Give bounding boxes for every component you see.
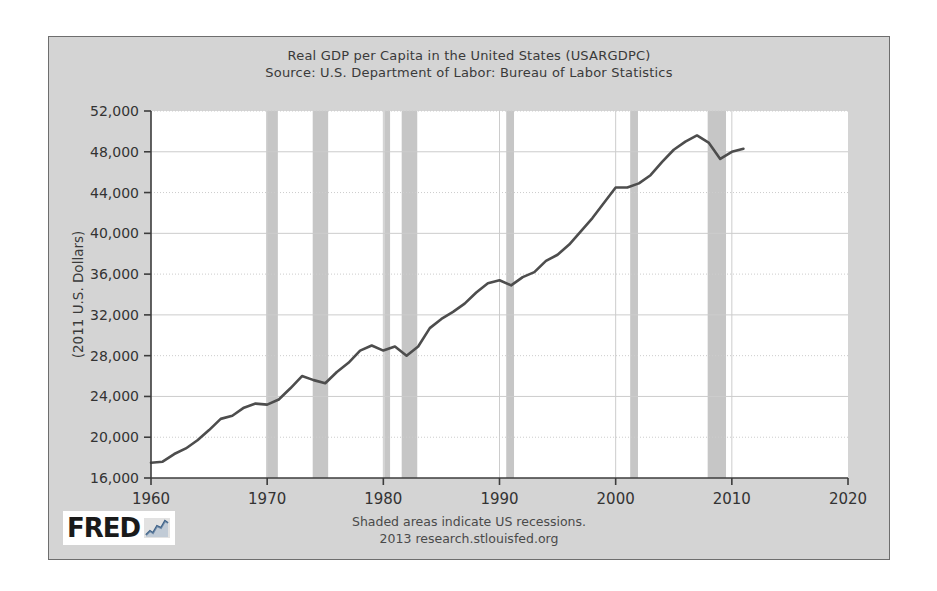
- fred-chart-card: Real GDP per Capita in the United States…: [48, 36, 890, 560]
- recession-band: [313, 111, 328, 478]
- recession-band: [708, 111, 726, 478]
- x-axis-tick-label: 2010: [713, 490, 751, 508]
- fred-logo[interactable]: FRED: [63, 511, 175, 545]
- recession-band: [266, 111, 278, 478]
- y-axis-label: (2011 U.S. Dollars): [70, 231, 86, 359]
- y-axis-tick-label: 52,000: [90, 103, 139, 119]
- y-axis-tick-label: 48,000: [90, 144, 139, 160]
- recession-band: [630, 111, 638, 478]
- chart-plot: 16,00020,00024,00028,00032,00036,00040,0…: [49, 37, 891, 561]
- y-axis-tick-label: 16,000: [90, 470, 139, 486]
- recession-band: [384, 111, 390, 478]
- x-axis-tick-label: 1970: [248, 490, 286, 508]
- y-axis-tick-label: 44,000: [90, 185, 139, 201]
- recession-note: Shaded areas indicate US recessions.: [49, 513, 889, 530]
- y-axis-tick-label: 20,000: [90, 429, 139, 445]
- y-axis-tick-label: 40,000: [90, 225, 139, 241]
- source-note: 2013 research.stlouisfed.org: [49, 530, 889, 547]
- recession-band: [402, 111, 418, 478]
- plot-area-host: 16,00020,00024,00028,00032,00036,00040,0…: [49, 37, 891, 561]
- line-chart-icon: [144, 518, 170, 538]
- y-axis-tick-label: 28,000: [90, 348, 139, 364]
- x-axis-tick-label: 1990: [480, 490, 518, 508]
- x-axis-tick-label: 2020: [829, 490, 867, 508]
- chart-screenshot: Real GDP per Capita in the United States…: [0, 0, 937, 591]
- fred-wordmark: FRED: [67, 515, 140, 541]
- y-axis-tick-label: 24,000: [90, 388, 139, 404]
- x-axis-tick-label: 2000: [597, 490, 635, 508]
- y-axis-tick-label: 36,000: [90, 266, 139, 282]
- x-axis-tick-label: 1960: [132, 490, 170, 508]
- x-axis-tick-label: 1980: [364, 490, 402, 508]
- chart-footer: Shaded areas indicate US recessions. 201…: [49, 513, 889, 547]
- y-axis-tick-label: 32,000: [90, 307, 139, 323]
- recession-band: [506, 111, 514, 478]
